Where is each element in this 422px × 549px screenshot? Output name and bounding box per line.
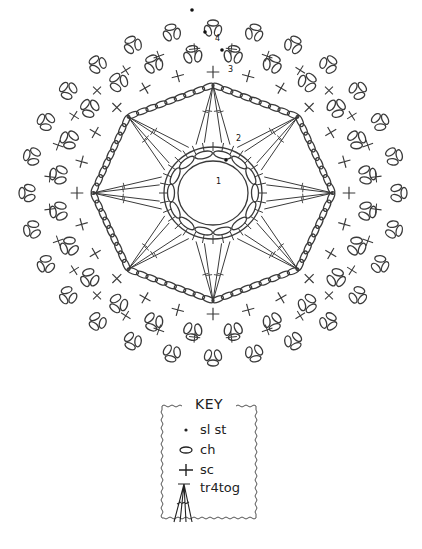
round-number-labels: 1234: [215, 34, 241, 186]
key-item-sc: sc: [176, 460, 214, 478]
key-label: ch: [200, 442, 215, 457]
key-label: tr4tog: [200, 480, 240, 495]
key-legend: KEY sl st ch sc tr4tog: [158, 398, 260, 522]
chart-stitches: [19, 8, 407, 366]
cluster-icon: [176, 478, 196, 518]
key-label: sl st: [200, 422, 226, 437]
key-item-sl-st: sl st: [176, 420, 226, 438]
round-label: 3: [228, 65, 233, 74]
round-label: 1: [216, 177, 221, 186]
round-label: 4: [215, 34, 220, 43]
round-label: 2: [236, 134, 241, 143]
key-item-ch: ch: [176, 440, 215, 458]
crochet-chart: 1234: [0, 0, 422, 390]
plus-icon: [176, 461, 196, 477]
oval-icon: [176, 441, 196, 457]
key-label: sc: [200, 462, 214, 477]
key-title: KEY: [158, 396, 260, 412]
dot-icon: [176, 421, 196, 437]
key-item-tr4tog: tr4tog: [176, 478, 240, 496]
